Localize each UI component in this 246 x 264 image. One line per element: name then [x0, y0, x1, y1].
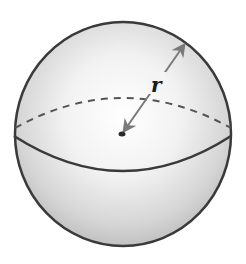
sphere-diagram: r: [0, 0, 246, 264]
radius-label: r: [151, 73, 163, 97]
center-point: [119, 132, 126, 137]
sphere-figure: r: [0, 0, 246, 264]
